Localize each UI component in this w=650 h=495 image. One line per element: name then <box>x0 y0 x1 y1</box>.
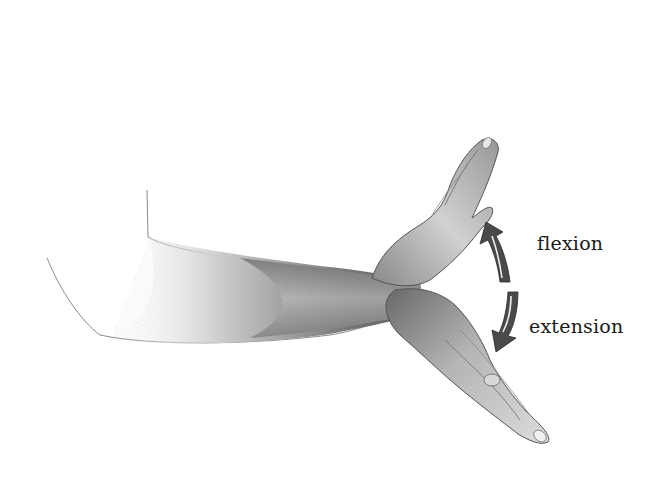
flexion-arrow-icon <box>480 222 510 282</box>
forearm <box>110 238 425 343</box>
extension-label: extension <box>529 315 623 337</box>
hand-flexion <box>372 136 498 286</box>
flexion-label: flexion <box>537 232 603 254</box>
extension-arrow-icon <box>492 292 518 352</box>
hand-extension <box>386 289 549 445</box>
wrist-motion-diagram: flexion extension <box>0 0 650 495</box>
